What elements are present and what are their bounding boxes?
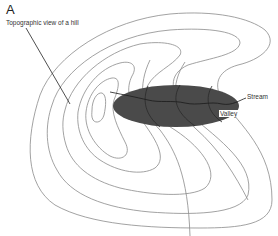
valley-label: Valley bbox=[219, 110, 238, 117]
contour-line-6-hilltop bbox=[92, 93, 106, 122]
stream-label: Stream bbox=[247, 93, 268, 100]
panel-label: A bbox=[6, 2, 15, 17]
contour-map bbox=[0, 0, 278, 236]
topographic-diagram: A Topographic view of a hill Stream Vall… bbox=[0, 0, 278, 236]
hill-label-leader bbox=[26, 28, 70, 104]
contour-crossing-2 bbox=[175, 62, 248, 200]
hill-label: Topographic view of a hill bbox=[6, 19, 79, 26]
